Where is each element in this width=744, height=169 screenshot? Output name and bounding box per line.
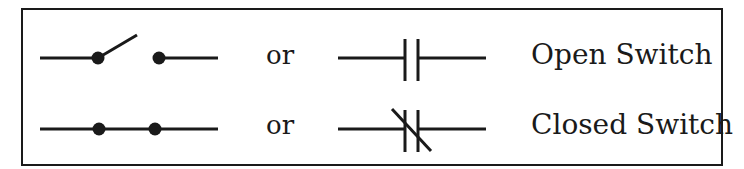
closed-switch-dots-icon: [40, 123, 218, 136]
normally-closed-contact-icon: [338, 109, 486, 152]
or-label-row-1: or: [266, 40, 294, 70]
open-switch-label: Open Switch: [531, 38, 712, 71]
or-label-row-2: or: [266, 110, 294, 140]
switch-symbols: [0, 0, 744, 169]
open-switch-pivot-icon: [40, 35, 218, 65]
normally-open-contact-icon: [338, 39, 486, 81]
closed-switch-label: Closed Switch: [531, 108, 733, 141]
